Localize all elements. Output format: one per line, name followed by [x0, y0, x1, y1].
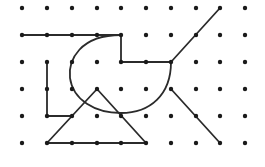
grid-dot: [169, 60, 173, 64]
grid-dot: [144, 141, 148, 145]
grid-dot: [45, 60, 49, 64]
grid-dot: [243, 33, 247, 37]
grid-dot: [194, 33, 198, 37]
grid-dot: [119, 87, 123, 91]
grid-dot: [95, 114, 99, 118]
grid-dot: [243, 141, 247, 145]
grid-dot: [20, 6, 24, 10]
grid-dot: [45, 33, 49, 37]
grid-dot: [218, 87, 222, 91]
grid-dot: [45, 141, 49, 145]
grid-dot: [70, 33, 74, 37]
grid-dot: [119, 60, 123, 64]
grid-dot: [70, 141, 74, 145]
grid-dot: [169, 33, 173, 37]
grid-dot: [95, 60, 99, 64]
grid-dot: [95, 87, 99, 91]
grid-dot: [95, 141, 99, 145]
grid-dot: [70, 6, 74, 10]
grid-dot: [20, 141, 24, 145]
grid-dot: [119, 6, 123, 10]
grid-dot: [119, 141, 123, 145]
grid-dot: [218, 33, 222, 37]
dot-grid: [20, 6, 247, 145]
grid-dot: [119, 114, 123, 118]
grid-dot: [169, 114, 173, 118]
grid-dot: [218, 6, 222, 10]
grid-dot: [20, 60, 24, 64]
grid-dot: [218, 141, 222, 145]
grid-dot: [20, 87, 24, 91]
grid-dot: [243, 114, 247, 118]
grid-dot: [243, 6, 247, 10]
grid-dot: [218, 114, 222, 118]
grid-dot: [144, 87, 148, 91]
grid-dot: [45, 114, 49, 118]
grid-dot: [144, 114, 148, 118]
l-shape-polyline: [47, 62, 72, 116]
grid-dot: [20, 114, 24, 118]
grid-dot: [45, 6, 49, 10]
grid-dot: [20, 33, 24, 37]
grid-dot: [45, 87, 49, 91]
grid-dot: [243, 60, 247, 64]
grid-dot: [144, 33, 148, 37]
grid-dot: [194, 114, 198, 118]
grid-dot: [169, 87, 173, 91]
grid-dot: [144, 60, 148, 64]
grid-dot: [194, 141, 198, 145]
grid-dot: [169, 141, 173, 145]
grid-dot: [243, 87, 247, 91]
grid-dot: [70, 87, 74, 91]
grid-dot: [95, 6, 99, 10]
grid-dot: [95, 33, 99, 37]
grid-dot: [218, 60, 222, 64]
grid-dot: [194, 60, 198, 64]
grid-dot: [119, 33, 123, 37]
dot-grid-diagram: [0, 0, 265, 167]
grid-dot: [194, 87, 198, 91]
grid-dot: [70, 60, 74, 64]
shape-layer: [22, 8, 220, 143]
grid-dot: [70, 114, 74, 118]
grid-dot: [194, 6, 198, 10]
grid-dot: [169, 6, 173, 10]
grid-dot: [144, 6, 148, 10]
